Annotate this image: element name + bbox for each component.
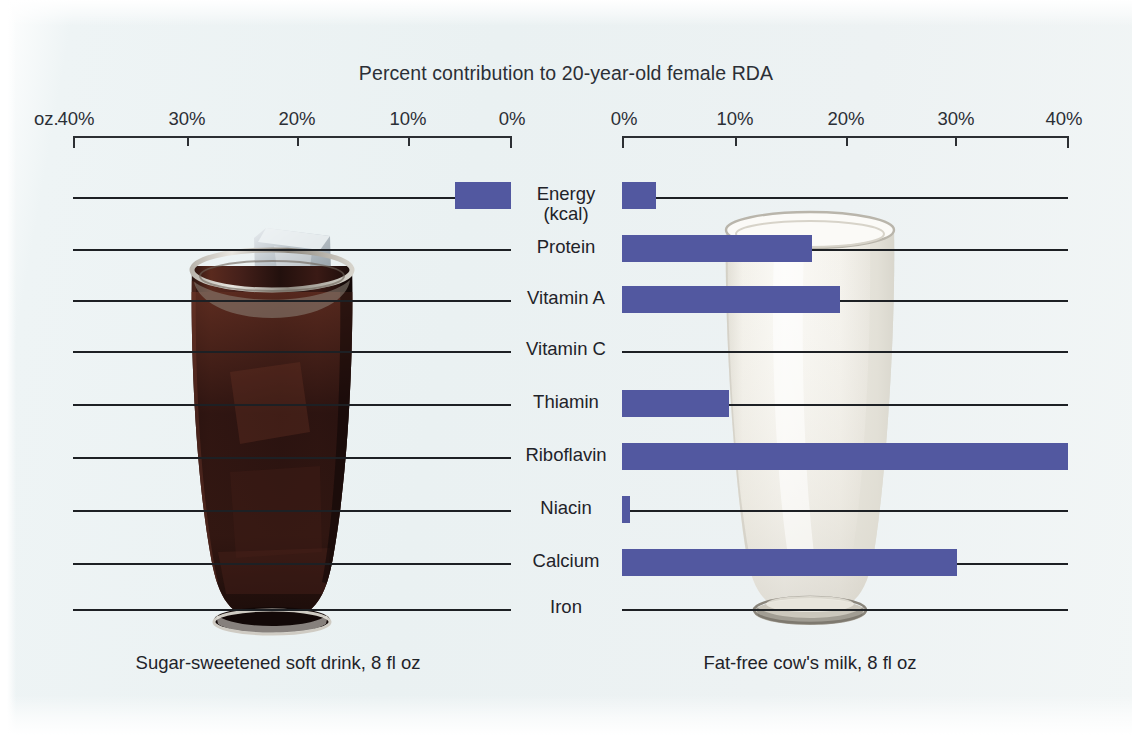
category-label-niacin: Niacin <box>540 498 591 518</box>
right-axis: 0% 10% 20% 30% 40% <box>0 108 1132 148</box>
right-row-line-niacin <box>630 510 1068 512</box>
chart-title: Percent contribution to 20-year-old fema… <box>0 62 1132 85</box>
right-row-line-protein <box>812 249 1068 251</box>
left-row-line-niacin <box>73 510 511 512</box>
left-row-line-calcium <box>73 563 511 565</box>
page-left-edge <box>0 0 16 735</box>
category-label-iron: Iron <box>550 597 582 617</box>
right-axis-line <box>622 136 1068 138</box>
category-label-calcium-main: Calcium <box>533 551 600 571</box>
right-axis-cap-0 <box>622 136 624 148</box>
right-bar-riboflavin <box>622 443 1068 470</box>
right-axis-tickmark-30 <box>955 136 957 146</box>
right-bar-niacin <box>622 496 630 523</box>
right-axis-tick-40: 40% <box>1045 108 1082 130</box>
right-row-line-energy <box>656 197 1068 199</box>
left-row-line-riboflavin <box>73 457 511 459</box>
left-row-line-vitamin-a <box>73 300 511 302</box>
category-label-protein-main: Protein <box>537 237 596 257</box>
left-row-line-iron <box>73 609 511 611</box>
category-label-iron-main: Iron <box>550 597 582 617</box>
category-label-riboflavin-main: Riboflavin <box>525 445 606 465</box>
right-bar-vitamin-a <box>622 286 840 313</box>
category-label-vitamin-c-main: Vitamin C <box>526 339 606 359</box>
left-row-line-thiamin <box>73 404 511 406</box>
nutrition-comparison-figure: Percent contribution to 20-year-old fema… <box>0 0 1132 735</box>
page-top-edge <box>0 0 1132 26</box>
right-row-line-thiamin <box>729 404 1068 406</box>
right-axis-tickmark-10 <box>735 136 737 146</box>
right-axis-cap-40 <box>1067 136 1069 148</box>
category-label-riboflavin: Riboflavin <box>525 445 606 465</box>
right-axis-tick-0: 0% <box>611 108 638 130</box>
left-row-line-energy <box>73 197 457 199</box>
right-bar-protein <box>622 235 812 262</box>
category-label-niacin-main: Niacin <box>540 498 591 518</box>
cola-glass-with-ice-photo <box>170 222 375 640</box>
right-axis-tick-30: 30% <box>937 108 974 130</box>
right-axis-tick-10: 10% <box>716 108 753 130</box>
right-row-line-calcium <box>957 563 1068 565</box>
category-label-energy-main: Energy <box>537 184 596 204</box>
right-row-line-iron <box>622 609 1068 611</box>
left-bar-energy <box>455 182 511 209</box>
category-label-vitamin-c: Vitamin C <box>526 339 606 359</box>
category-label-thiamin-main: Thiamin <box>533 392 599 412</box>
category-label-calcium: Calcium <box>533 551 600 571</box>
right-bar-energy <box>622 182 656 209</box>
right-row-line-vitamin-c <box>622 351 1068 353</box>
category-label-protein: Protein <box>537 237 596 257</box>
caption-soft-drink: Sugar-sweetened soft drink, 8 fl oz <box>136 652 421 674</box>
right-axis-tick-20: 20% <box>827 108 864 130</box>
left-row-line-vitamin-c <box>73 351 511 353</box>
category-label-vitamin-a: Vitamin A <box>527 288 605 308</box>
right-row-line-vitamin-a <box>840 300 1068 302</box>
left-row-line-protein <box>73 249 511 251</box>
category-label-energy-sub: (kcal) <box>537 204 596 224</box>
right-bar-thiamin <box>622 390 729 417</box>
category-label-vitamin-a-main: Vitamin A <box>527 288 605 308</box>
caption-milk: Fat-free cow's milk, 8 fl oz <box>703 652 916 674</box>
category-label-thiamin: Thiamin <box>533 392 599 412</box>
page-bottom-edge <box>0 695 1132 735</box>
right-bar-calcium <box>622 549 957 576</box>
right-axis-tickmark-20 <box>846 136 848 146</box>
category-label-energy: Energy (kcal) <box>537 184 596 224</box>
